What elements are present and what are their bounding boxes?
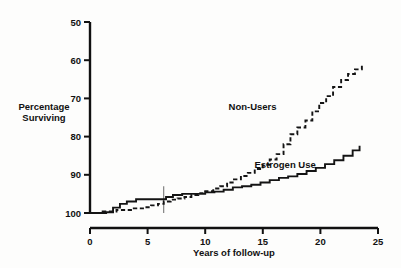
x-tick-label-25: 25 xyxy=(373,236,384,247)
y-tick-label-70: 70 xyxy=(70,93,81,104)
annotation-estrogen-use: Estrogen Use xyxy=(255,159,316,170)
y-tick-label-100: 100 xyxy=(65,208,81,219)
x-tick-label-10: 10 xyxy=(200,236,211,247)
x-axis-tick-labels: 0510152025 xyxy=(87,236,384,247)
x-axis: 0510152025 xyxy=(87,228,384,247)
series-annotation-labels: Non-UsersEstrogen Use xyxy=(229,101,316,170)
y-tick-label-90: 90 xyxy=(70,169,81,180)
y-tick-label-50: 50 xyxy=(70,17,81,28)
chart-plot-area: 5060708090100 0510152025 Non-UsersEstrog… xyxy=(0,0,401,268)
y-tick-label-60: 60 xyxy=(70,55,81,66)
y-axis: 5060708090100 xyxy=(65,17,90,219)
y-tick-label-80: 80 xyxy=(70,131,81,142)
x-tick-label-0: 0 xyxy=(87,236,92,247)
survival-chart-figure: 5060708090100 0510152025 Non-UsersEstrog… xyxy=(0,0,401,268)
series-line-non-users xyxy=(90,65,362,213)
x-tick-label-15: 15 xyxy=(258,236,269,247)
y-axis-title-line2: Surviving xyxy=(22,112,65,123)
x-tick-label-20: 20 xyxy=(315,236,326,247)
series-line-estrogen-use xyxy=(90,146,360,213)
y-axis-tick-labels: 5060708090100 xyxy=(65,17,81,219)
x-tick-label-5: 5 xyxy=(145,236,151,247)
annotation-non-users: Non-Users xyxy=(229,101,277,112)
x-axis-title: Years of follow-up xyxy=(193,247,275,258)
y-axis-title-line1: Percentage xyxy=(18,101,69,112)
